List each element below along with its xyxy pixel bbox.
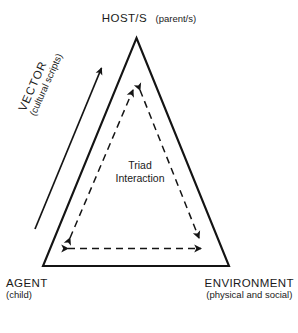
agent-subtitle: (child) <box>6 290 48 301</box>
triad-interaction-label: Triad Interaction <box>103 159 177 186</box>
triad-line-2: Interaction <box>103 172 177 185</box>
host-subtitle: (parent/s) <box>156 13 197 24</box>
diagram-canvas: HOST/S (parent/s) AGENT (child) ENVIRONM… <box>0 0 298 333</box>
environment-title: ENVIRONMENT <box>205 277 294 290</box>
vertex-label-host: HOST/S (parent/s) <box>0 8 298 26</box>
triad-line-1: Triad <box>103 159 177 172</box>
agent-title: AGENT <box>6 277 48 290</box>
vertex-label-agent: AGENT (child) <box>6 277 48 301</box>
outer-triangle <box>43 38 229 266</box>
host-title: HOST/S <box>102 12 147 24</box>
vertex-label-environment: ENVIRONMENT (physical and social) <box>205 277 294 301</box>
environment-subtitle: (physical and social) <box>205 290 294 301</box>
